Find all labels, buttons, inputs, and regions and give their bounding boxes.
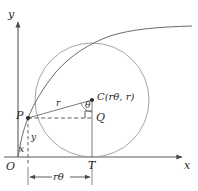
point-dot-C xyxy=(90,98,94,102)
point-label-P: P xyxy=(16,110,23,121)
x-axis-label: x xyxy=(184,160,190,171)
point-label-Q: Q xyxy=(96,112,105,123)
point-label-T: T xyxy=(88,160,95,171)
angle-label-theta: θ xyxy=(85,101,90,110)
dimension-label: rθ xyxy=(53,172,64,182)
point-label-C: C(rθ, r) xyxy=(97,92,134,102)
radius-label: r xyxy=(56,99,60,108)
cycloid-figure: y x O C(rθ, r) P Q T r θ y x rθ xyxy=(0,0,198,191)
origin-label: O xyxy=(6,161,15,172)
vertical-drop-label: y xyxy=(31,133,36,142)
horizontal-offset-label: x xyxy=(19,145,24,154)
point-dot-P xyxy=(26,116,30,120)
y-axis-label: y xyxy=(8,9,14,20)
